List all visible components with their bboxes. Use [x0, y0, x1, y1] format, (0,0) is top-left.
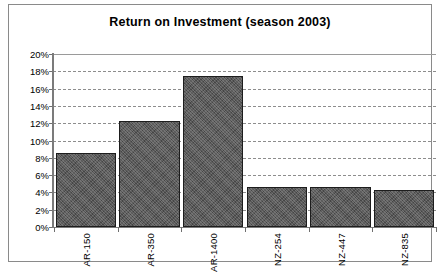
chart-frame: Return on Investment (season 2003) 0%2%4…: [8, 4, 432, 262]
y-axis-tick-label: 18%: [11, 66, 49, 77]
x-axis-tick-label: AR-1400: [208, 233, 219, 272]
x-axis-tick-label: AR-350: [145, 233, 156, 266]
x-axis-tick-labels: AR-150AR-350AR-1400NZ-254NZ-447NZ-835: [54, 233, 436, 273]
chart-title: Return on Investment (season 2003): [9, 15, 431, 29]
y-axis-tick-label: 2%: [11, 204, 49, 215]
y-axis-tick-label: 14%: [11, 100, 49, 111]
y-axis-tick-label: 8%: [11, 152, 49, 163]
x-axis-tick-label: NZ-254: [272, 233, 283, 266]
x-axis-tick-label: NZ-447: [336, 233, 347, 266]
x-axis-tick-mark: [436, 227, 437, 232]
bar: [183, 76, 243, 227]
x-axis-tick-mark: [245, 227, 246, 232]
bar: [56, 153, 116, 227]
x-axis-tick-mark: [181, 227, 182, 232]
bar: [310, 187, 370, 227]
x-axis-tick-label: NZ-835: [399, 233, 410, 266]
y-axis-tick-label: 4%: [11, 187, 49, 198]
y-axis-tick-label: 10%: [11, 135, 49, 146]
x-axis-tick-mark: [118, 227, 119, 232]
y-axis-tick-label: 12%: [11, 118, 49, 129]
x-axis-tick-label: AR-150: [81, 233, 92, 266]
x-axis-tick-mark: [54, 227, 55, 232]
y-axis-tick-label: 0%: [11, 222, 49, 233]
bar-series: [54, 54, 436, 227]
y-axis-tick-label: 20%: [11, 49, 49, 60]
bar: [247, 187, 307, 227]
x-axis-tick-mark: [372, 227, 373, 232]
y-axis-tick-label: 6%: [11, 170, 49, 181]
y-axis-tick-labels: 0%2%4%6%8%10%12%14%16%18%20%: [9, 54, 49, 227]
bar: [374, 190, 434, 227]
x-axis-tick-mark: [309, 227, 310, 232]
bar: [119, 121, 179, 227]
y-axis-tick-label: 16%: [11, 83, 49, 94]
